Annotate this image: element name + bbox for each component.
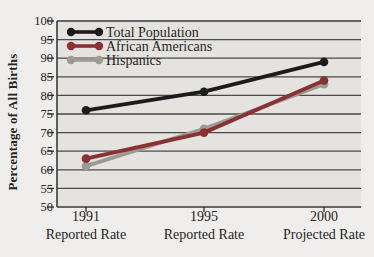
x-tick-label-rate: Reported Rate — [164, 227, 244, 242]
legend-label: Hispanics — [106, 53, 161, 68]
y-axis-title: Percentage of All Births — [5, 53, 21, 190]
legend-marker-dot — [67, 56, 75, 64]
legend-marker-dot — [67, 28, 75, 36]
legend-label: Total Population — [106, 25, 199, 40]
y-tick-label: 70 — [41, 126, 54, 140]
y-tick-label: 60 — [41, 163, 54, 177]
x-tick-label-rate: Reported Rate — [46, 227, 126, 242]
y-tick-label: 55 — [41, 182, 54, 196]
data-point-african-americans — [200, 128, 209, 137]
legend-marker-dot — [67, 42, 75, 50]
y-tick-label: 85 — [41, 70, 54, 84]
legend-label: African Americans — [106, 39, 212, 54]
data-point-total-population — [320, 58, 329, 67]
y-tick-label: 90 — [41, 51, 54, 65]
x-tick-label-year: 2000 — [310, 209, 338, 224]
y-tick-label: 80 — [41, 89, 54, 103]
data-point-total-population — [82, 106, 91, 115]
x-tick-label-rate: Projected Rate — [283, 227, 365, 242]
data-point-african-americans — [320, 76, 329, 85]
legend-marker-dot — [95, 42, 103, 50]
chart: Percentage of All Births 505560657075808… — [0, 0, 374, 257]
y-tick-label: 50 — [41, 200, 54, 214]
y-tick-label: 100 — [34, 14, 53, 28]
x-tick-label-year: 1995 — [190, 209, 218, 224]
data-point-african-americans — [82, 154, 91, 163]
data-point-hispanics — [82, 162, 91, 171]
line-chart: 505560657075808590951001991Reported Rate… — [0, 0, 374, 257]
y-tick-label: 65 — [41, 144, 54, 158]
legend-marker-dot — [95, 56, 103, 64]
x-tick-label-year: 1991 — [72, 209, 100, 224]
data-point-total-population — [200, 87, 209, 96]
y-tick-label: 95 — [41, 33, 54, 47]
legend-marker-dot — [95, 28, 103, 36]
y-tick-label: 75 — [41, 107, 54, 121]
